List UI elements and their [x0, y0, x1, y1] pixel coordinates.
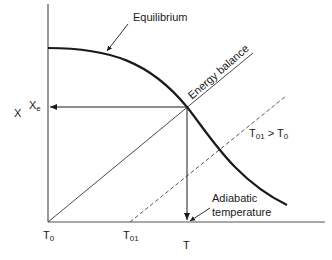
t01-base: T — [123, 229, 130, 241]
cond-sub1: 01 — [256, 132, 265, 141]
cond-t2: T — [277, 127, 284, 139]
adiabatic-label-line1: Adiabatic — [212, 192, 257, 205]
condition-label: T01 > T0 — [249, 127, 288, 140]
cond-sub2: 0 — [284, 132, 288, 141]
xe-sub: e — [36, 104, 40, 113]
adiabatic-label-line2: temperature — [212, 206, 271, 219]
t0-tick-label: T0 — [43, 229, 54, 242]
t01-tick-label: T01 — [123, 229, 139, 242]
t0-sub: 0 — [50, 234, 54, 243]
t0-base: T — [43, 229, 50, 241]
y-axis-label: X — [14, 107, 21, 120]
x-axis-label: T — [183, 239, 190, 252]
equilibrium-pointer-arrow — [107, 24, 128, 51]
adiabatic-pointer-arrow — [190, 208, 210, 221]
t01-sub: 01 — [130, 234, 139, 243]
xe-tick-label: Xe — [29, 99, 41, 112]
cond-t: T — [249, 127, 256, 139]
energy-balance-shifted-line — [130, 96, 286, 222]
equilibrium-label: Equilibrium — [133, 11, 187, 24]
cond-op: > — [265, 127, 277, 139]
